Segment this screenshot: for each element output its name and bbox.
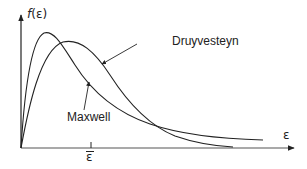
druyvesteyn-curve <box>21 41 233 148</box>
druyvesteyn-pointer <box>102 44 137 64</box>
mean-energy-symbol: ε <box>86 150 93 164</box>
maxwell-curve <box>21 33 263 148</box>
y-axis-label: f(ε) <box>27 7 47 21</box>
druyvesteyn-label: Druyvesteyn <box>172 34 239 48</box>
overbar <box>86 151 94 152</box>
distribution-plot <box>0 0 307 169</box>
x-axis-label: ε <box>283 128 290 142</box>
mean-energy-label: ε <box>86 150 93 164</box>
y-axis-argument: (ε) <box>31 7 47 21</box>
maxwell-label: Maxwell <box>67 110 110 124</box>
maxwell-pointer <box>84 82 89 110</box>
